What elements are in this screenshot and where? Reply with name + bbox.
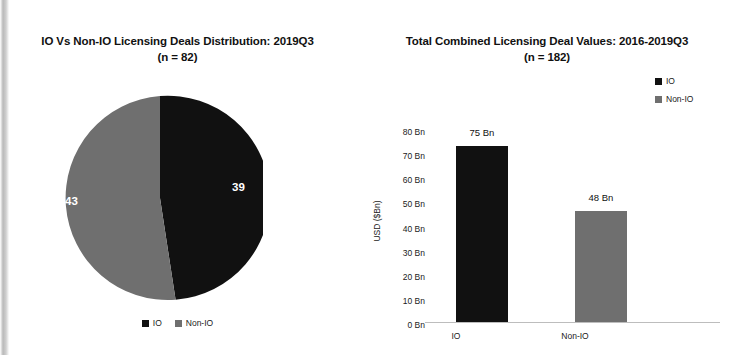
bar-chart-legend: IO Non-IO [655,76,693,104]
legend-label-io: IO [666,76,675,86]
legend-item-io: IO [655,76,693,86]
legend-item-non-io: Non-IO [175,318,213,328]
bar-chart-panel: Total Combined Licensing Deal Values: 20… [355,0,739,355]
pie-chart-subtitle: (n = 82) [0,49,355,65]
y-tick-50: 50 Bn [379,200,425,209]
gray-square-icon [655,96,662,103]
legend-label-non-io: Non-IO [666,94,693,104]
bars-container: 75 Bn 48 Bn [433,128,713,322]
y-tick-30: 30 Bn [379,249,425,258]
legend-item-io: IO [142,318,162,328]
pie-chart-title-text: IO Vs Non-IO Licensing Deals Distributio… [41,35,313,47]
x-tick-io: IO [411,331,501,341]
pie-slice-io [160,96,263,300]
y-tick-60: 60 Bn [379,176,425,185]
y-tick-10: 10 Bn [379,297,425,306]
legend-label-io: IO [153,318,162,328]
pie-slice-non-io [66,96,176,300]
bar-io[interactable] [456,146,508,322]
bar-chart-plot-area: USD ($Bn) 80 Bn 70 Bn 60 Bn 50 Bn 40 Bn … [355,0,739,355]
y-tick-40: 40 Bn [379,225,425,234]
y-tick-80: 80 Bn [379,128,425,137]
x-tick-non-io: Non-IO [530,331,620,341]
pie-chart-panel: IO Vs Non-IO Licensing Deals Distributio… [0,0,355,355]
black-square-icon [655,78,662,85]
x-axis-baseline [425,322,720,323]
black-square-icon [142,320,149,327]
pie-slice-label-io: 39 [232,181,245,193]
y-axis-ticks: 80 Bn 70 Bn 60 Bn 50 Bn 40 Bn 30 Bn 20 B… [367,0,425,355]
y-tick-0: 0 Bn [379,321,425,330]
y-tick-20: 20 Bn [379,273,425,282]
pie-slice-label-non-io: 43 [65,195,78,207]
bar-value-label-non-io: 48 Bn [561,192,641,203]
bar-non-io[interactable] [575,211,627,322]
gray-square-icon [175,320,182,327]
pie-svg [57,95,263,301]
pie-chart-title: IO Vs Non-IO Licensing Deals Distributio… [0,33,355,65]
pie-chart-graphic: 39 43 [57,95,263,301]
legend-label-non-io: Non-IO [186,318,213,328]
y-tick-70: 70 Bn [379,152,425,161]
bar-value-label-io: 75 Bn [442,127,522,138]
pie-chart-legend: IO Non-IO [0,318,355,328]
legend-item-non-io: Non-IO [655,94,693,104]
